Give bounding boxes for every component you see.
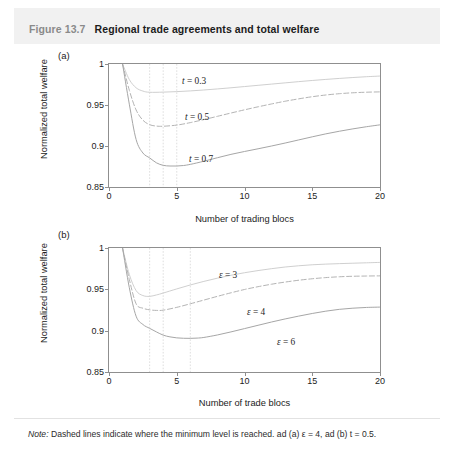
figure-body: (a) Normalized total welfare 1 0.95 0.9 … [14, 44, 440, 418]
x-axis-label-b: Number of trade blocs [108, 398, 381, 408]
x-tick-b-20: 20 [375, 376, 385, 386]
curve-label-a-t03: t = 0.3 [182, 76, 206, 86]
y-tick-a-085: 0.85 [86, 182, 104, 192]
y-tick-a-095: 0.95 [86, 100, 104, 110]
curve-label-a-t07: t = 0.7 [189, 154, 213, 164]
x-tick-a-5: 5 [174, 191, 179, 201]
y-tick-b-09: 0.9 [91, 326, 104, 336]
figure-card: Figure 13.7Regional trade agreements and… [14, 8, 440, 456]
panel-label-b: (b) [58, 229, 70, 240]
curve-label-b-e4: ε = 4 [247, 307, 265, 317]
y-tick-b-095: 0.95 [86, 284, 104, 294]
curve-label-a-t05: t = 0.5 [185, 112, 209, 122]
x-tick-a-15: 15 [307, 191, 317, 201]
x-axis-label-a: Number of trading blocs [108, 214, 381, 224]
chart-panel-b: (b) Normalized total welfare 1 0.95 0.9 … [14, 226, 440, 418]
y-axis-label-a: Normalized total welfare [39, 34, 49, 184]
x-tick-a-0: 0 [106, 191, 111, 201]
y-tick-b-1: 1 [99, 243, 104, 253]
plot-area-b: 1 0.95 0.9 0.85 0 5 10 15 20 ε = 3 ε = 4… [108, 247, 381, 373]
panel-label-a: (a) [58, 50, 70, 61]
figure-number: Figure 13.7 [29, 23, 86, 35]
chart-panel-a: (a) Normalized total welfare 1 0.95 0.9 … [14, 44, 440, 234]
curve-label-b-e6: ε = 6 [277, 337, 295, 347]
figure-note: Note: Dashed lines indicate where the mi… [14, 418, 440, 457]
x-tick-a-10: 10 [239, 191, 249, 201]
x-tick-a-20: 20 [375, 191, 385, 201]
figure-note-content: Note: Dashed lines indicate where the mi… [28, 429, 376, 439]
y-tick-a-09: 0.9 [91, 141, 104, 151]
y-tick-b-085: 0.85 [86, 367, 104, 377]
x-tick-b-15: 15 [307, 376, 317, 386]
figure-header: Figure 13.7Regional trade agreements and… [14, 8, 440, 45]
x-tick-b-0: 0 [106, 376, 111, 386]
curve-label-b-e3: ε = 3 [219, 270, 237, 280]
x-tick-b-5: 5 [174, 376, 179, 386]
y-axis-label-b: Normalized total welfare [39, 218, 49, 368]
note-body: Dashed lines indicate where the minimum … [49, 429, 377, 439]
chart-curves-b [109, 248, 380, 372]
figure-title: Regional trade agreements and total welf… [95, 23, 320, 35]
y-tick-a-1: 1 [99, 59, 104, 69]
plot-area-a: 1 0.95 0.9 0.85 0 5 10 15 20 t = 0.3 t =… [108, 63, 381, 188]
chart-curves-a [109, 64, 380, 187]
x-tick-b-10: 10 [239, 376, 249, 386]
figure-header-text: Figure 13.7Regional trade agreements and… [29, 19, 319, 37]
note-lead: Note: [28, 429, 49, 439]
